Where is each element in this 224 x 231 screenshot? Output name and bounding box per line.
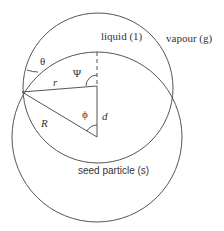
theta-arc [27,70,38,72]
seed-label: seed particle (s) [78,165,149,176]
phi-arc [87,125,97,131]
r-label: r [53,76,58,88]
radius-r-line [22,86,97,92]
theta-label: θ [40,55,45,67]
psi-label: Ψ [73,67,82,79]
phi-label: ϕ [82,108,88,120]
d-label: d [102,110,108,122]
psi-arc [86,75,97,86]
vapour-label: vapour (g) [166,32,212,45]
liquid-label: liquid (1) [101,30,143,43]
R-label: R [40,117,48,129]
droplet-on-seed-diagram: liquid (1) vapour (g) seed particle (s) … [0,0,224,231]
liquid-circle [23,13,173,163]
